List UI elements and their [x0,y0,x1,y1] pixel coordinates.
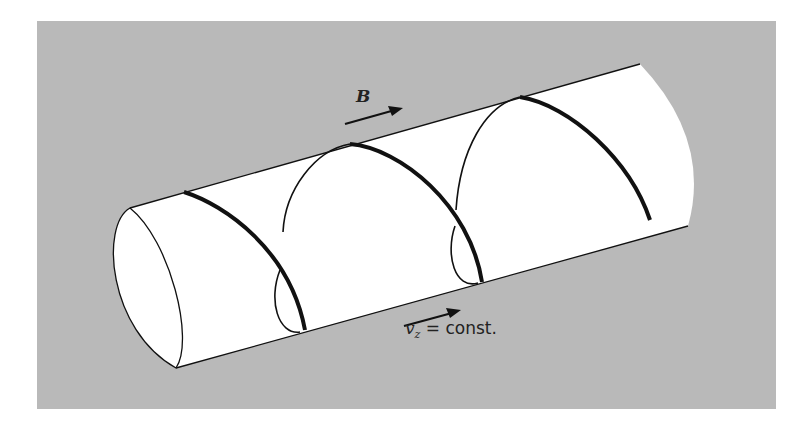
magnetic-field-arrow [345,106,403,124]
cylinder-helix-diagram [0,0,811,430]
velocity-label: vz = const. [405,318,497,341]
velocity-variable: v [405,318,415,338]
magnetic-field-label: B [356,86,370,106]
velocity-constant-text: = const. [420,318,497,338]
